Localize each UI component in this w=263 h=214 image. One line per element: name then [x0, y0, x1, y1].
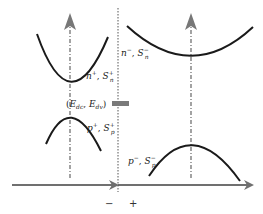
defect-level-bar [112, 101, 129, 106]
label-defect-level: (Edc, Edv) [66, 99, 106, 110]
label-right-conduction: n−, S−n [121, 46, 149, 60]
label-left-conduction: n+, S+n [86, 69, 114, 83]
label-right-valence: p−, S−p [128, 154, 156, 169]
minus-sign: − [105, 198, 113, 209]
band-diagram: n+, S+n (Edc, Edv) p+, S+p n−, S−n p−, S… [0, 0, 263, 214]
plus-sign: + [129, 198, 137, 209]
right-valence-band-curve [149, 145, 240, 181]
